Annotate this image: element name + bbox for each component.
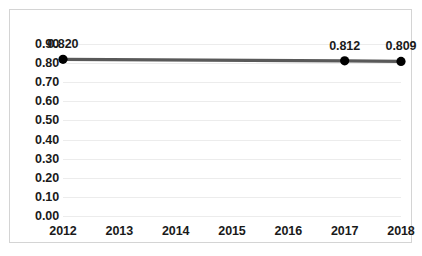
y-axis-tick-label: 0.20 bbox=[35, 171, 59, 185]
x-axis-tick-label: 2016 bbox=[275, 224, 302, 238]
gridline bbox=[63, 216, 401, 217]
y-axis-tick-label: 0.00 bbox=[35, 209, 59, 223]
x-axis-tick-label: 2018 bbox=[387, 224, 414, 238]
data-point-label: 0.812 bbox=[329, 39, 360, 53]
y-axis-tick-label: 0.10 bbox=[35, 190, 59, 204]
chart-frame: 0.900.800.700.600.500.400.300.200.100.00… bbox=[9, 9, 412, 243]
series-line bbox=[63, 59, 401, 61]
y-axis-tick-label: 0.70 bbox=[35, 75, 59, 89]
y-axis-tick-label: 0.50 bbox=[35, 113, 59, 127]
data-point-marker bbox=[340, 56, 349, 65]
x-axis-tick-label: 2014 bbox=[162, 224, 189, 238]
y-axis-tick-label: 0.60 bbox=[35, 94, 59, 108]
y-axis-tick-label: 0.40 bbox=[35, 133, 59, 147]
data-point-label: 0.820 bbox=[48, 37, 79, 51]
data-point-marker bbox=[396, 57, 405, 66]
line-series bbox=[63, 44, 401, 216]
x-axis-tick-label: 2017 bbox=[331, 224, 358, 238]
x-axis-tick-label: 2012 bbox=[49, 224, 76, 238]
x-axis-tick-label: 2015 bbox=[218, 224, 245, 238]
y-axis-tick-label: 0.30 bbox=[35, 152, 59, 166]
data-point-label: 0.809 bbox=[386, 39, 417, 53]
x-axis-tick-label: 2013 bbox=[106, 224, 133, 238]
data-point-marker bbox=[58, 55, 67, 64]
y-axis-tick-label: 0.80 bbox=[35, 56, 59, 70]
plot-area: 0.900.800.700.600.500.400.300.200.100.00… bbox=[63, 44, 401, 216]
